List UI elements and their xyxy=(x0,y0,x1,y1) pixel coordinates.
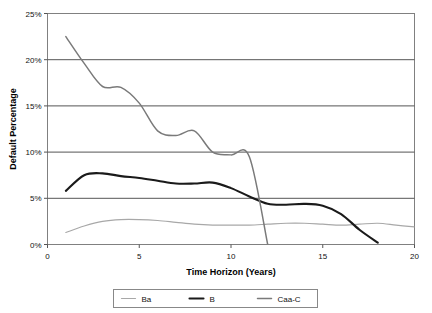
x-tick-label-10: 10 xyxy=(227,252,236,261)
y-tick-label-0: 0% xyxy=(30,241,42,250)
y-tick-label-15: 15% xyxy=(25,102,41,111)
x-tick-label-0: 0 xyxy=(45,252,50,261)
chart-legend: BaBCaa-C xyxy=(114,290,318,308)
legend-label-ba: Ba xyxy=(142,295,152,304)
y-axis-title: Default Percentage xyxy=(8,88,18,170)
chart-container: 0%5%10%15%20%25% 05101520 Default Percen… xyxy=(0,0,432,313)
plot-area-border xyxy=(48,14,415,245)
x-tick-label-5: 5 xyxy=(137,252,142,261)
y-tick-label-10: 10% xyxy=(25,148,41,157)
legend-label-caa-c: Caa-C xyxy=(278,295,301,304)
x-tick-label-15: 15 xyxy=(318,252,327,261)
legend-label-b: B xyxy=(210,295,215,304)
y-tick-label-25: 25% xyxy=(25,10,41,19)
x-tick-label-20: 20 xyxy=(410,252,419,261)
x-axis-title: Time Horizon (Years) xyxy=(186,267,275,277)
y-tick-label-5: 5% xyxy=(30,194,42,203)
default-percentage-line-chart: 0%5%10%15%20%25% 05101520 Default Percen… xyxy=(0,0,432,313)
y-tick-label-20: 20% xyxy=(25,56,41,65)
